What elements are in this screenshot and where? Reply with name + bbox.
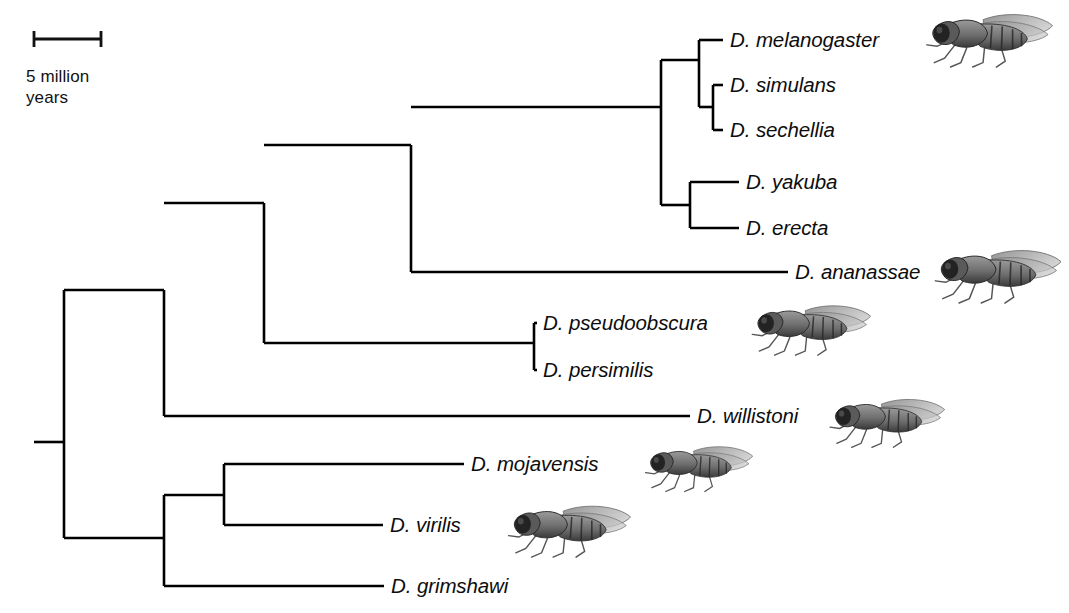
tip-label-persimilis: D. persimilis <box>543 358 653 382</box>
fly-pseudoobscura <box>734 294 882 358</box>
tip-label-pseudoobscura: D. pseudoobscura <box>543 311 708 335</box>
tip-label-yakuba: D. yakuba <box>746 170 837 194</box>
tip-label-sechellia: D. sechellia <box>730 118 835 142</box>
fly-mojavensis <box>632 436 760 494</box>
tip-label-ananassae: D. ananassae <box>795 260 920 284</box>
tip-label-mojavensis: D. mojavensis <box>471 452 598 476</box>
tip-label-simulans: D. simulans <box>730 73 836 97</box>
fly-body <box>830 399 945 447</box>
fly-virilis <box>490 494 642 560</box>
scale-bar-label: 5 million years <box>26 66 89 108</box>
fly-willistoni <box>813 388 955 450</box>
tip-label-melanogaster: D. melanogaster <box>730 28 879 52</box>
fly-body <box>646 447 753 492</box>
tip-label-willistoni: D. willistoni <box>697 404 798 428</box>
fly-body <box>927 15 1053 67</box>
fly-body <box>509 506 631 557</box>
fly-melanogaster <box>903 2 1069 70</box>
tip-label-virilis: D. virilis <box>390 513 461 537</box>
tip-label-erecta: D. erecta <box>746 216 828 240</box>
fly-body <box>752 306 870 355</box>
fly-ananassae <box>920 238 1069 306</box>
fly-body <box>935 251 1061 303</box>
tip-label-grimshawi: D. grimshawi <box>391 574 508 598</box>
